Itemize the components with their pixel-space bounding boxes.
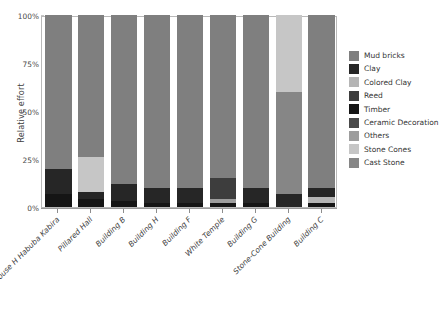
- legend-item[interactable]: Stone Cones: [349, 143, 437, 156]
- bar-white-temple[interactable]: [210, 17, 236, 207]
- legend-item[interactable]: Colored Clay: [349, 76, 437, 89]
- legend-item[interactable]: Ceramic Decoration: [349, 116, 437, 129]
- y-tick-label: 50%: [23, 108, 39, 117]
- bar-segment-mud-bricks[interactable]: [243, 15, 269, 188]
- bar-segment-stone-cones[interactable]: [78, 157, 104, 192]
- bar-segment-timber[interactable]: [177, 203, 203, 207]
- legend-item[interactable]: Reed: [349, 89, 437, 102]
- bar-segment-clay[interactable]: [111, 184, 137, 201]
- legend-label: Cast Stone: [364, 159, 405, 167]
- legend-swatch-icon: [349, 131, 359, 141]
- x-tick-mark: [321, 209, 322, 213]
- legend-label: Others: [364, 132, 389, 140]
- legend-label: Stone Cones: [364, 146, 411, 154]
- bar-segment-mud-bricks[interactable]: [177, 15, 203, 188]
- bar-house-h-habuba-kabira[interactable]: [45, 17, 71, 207]
- x-tick-mark: [189, 209, 190, 213]
- legend-item[interactable]: Cast Stone: [349, 156, 437, 169]
- y-tick-label: 25%: [23, 156, 39, 165]
- legend-label: Reed: [364, 92, 383, 100]
- bar-building-h[interactable]: [144, 17, 170, 207]
- legend-label: Colored Clay: [364, 79, 412, 87]
- plot-panel: [41, 16, 337, 208]
- bar-segment-timber[interactable]: [308, 203, 334, 207]
- bar-segment-mud-bricks[interactable]: [210, 15, 236, 178]
- x-tick-mark: [222, 209, 223, 213]
- legend-item[interactable]: Others: [349, 129, 437, 142]
- bar-building-b[interactable]: [111, 17, 137, 207]
- bar-segment-clay[interactable]: [308, 188, 334, 198]
- legend-swatch-icon: [349, 104, 359, 114]
- x-tick-mark: [156, 209, 157, 213]
- bar-segment-timber[interactable]: [243, 203, 269, 207]
- x-tick-mark: [288, 209, 289, 213]
- bar-building-g[interactable]: [243, 17, 269, 207]
- legend-swatch-icon: [349, 91, 359, 101]
- bar-segment-colored-clay[interactable]: [308, 197, 334, 203]
- bar-stone-cone-building[interactable]: [276, 17, 302, 207]
- y-tick-label: 100%: [18, 12, 39, 21]
- bar-segment-clay[interactable]: [276, 194, 302, 207]
- y-tick-label: 0%: [27, 204, 39, 213]
- bar-segment-mud-bricks[interactable]: [144, 15, 170, 188]
- legend-swatch-icon: [349, 144, 359, 154]
- x-tick-mark: [123, 209, 124, 213]
- legend-swatch-icon: [349, 64, 359, 74]
- legend-swatch-icon: [349, 51, 359, 61]
- bar-segment-timber[interactable]: [111, 201, 137, 207]
- x-tick-mark: [57, 209, 58, 213]
- bar-building-f[interactable]: [177, 17, 203, 207]
- bar-segment-mud-bricks[interactable]: [111, 15, 137, 184]
- bar-segment-timber[interactable]: [210, 203, 236, 207]
- legend-label: Clay: [364, 65, 380, 73]
- bar-segment-mud-bricks[interactable]: [308, 15, 334, 188]
- bar-segment-reed[interactable]: [210, 178, 236, 199]
- bar-segment-timber[interactable]: [144, 203, 170, 207]
- legend-swatch-icon: [349, 77, 359, 87]
- bar-segment-clay[interactable]: [78, 192, 104, 200]
- legend-label: Mud bricks: [364, 52, 405, 60]
- legend-item[interactable]: Clay: [349, 62, 437, 75]
- legend-item[interactable]: Timber: [349, 103, 437, 116]
- x-tick-mark: [255, 209, 256, 213]
- legend-label: Timber: [364, 106, 390, 114]
- bar-segment-clay[interactable]: [144, 188, 170, 203]
- legend: Mud bricksClayColored ClayReedTimberCera…: [349, 49, 437, 170]
- legend-swatch-icon: [349, 118, 359, 128]
- bar-segment-clay[interactable]: [177, 188, 203, 203]
- bar-segment-clay[interactable]: [243, 188, 269, 203]
- bar-pillared-hall[interactable]: [78, 17, 104, 207]
- bar-segment-cast-stone[interactable]: [276, 92, 302, 194]
- legend-item[interactable]: Mud bricks: [349, 49, 437, 62]
- bar-segment-timber[interactable]: [78, 199, 104, 207]
- legend-swatch-icon: [349, 158, 359, 168]
- bar-segment-clay[interactable]: [45, 169, 71, 194]
- bar-building-c[interactable]: [308, 17, 334, 207]
- bars-layer: [42, 17, 336, 207]
- bar-segment-stone-cones[interactable]: [276, 15, 302, 92]
- x-tick-mark: [90, 209, 91, 213]
- bar-segment-mud-bricks[interactable]: [78, 15, 104, 157]
- bar-segment-others[interactable]: [210, 199, 236, 203]
- y-tick-label: 75%: [23, 60, 39, 69]
- legend-label: Ceramic Decoration: [364, 119, 439, 127]
- bar-segment-timber[interactable]: [45, 194, 71, 207]
- bar-segment-mud-bricks[interactable]: [45, 15, 71, 169]
